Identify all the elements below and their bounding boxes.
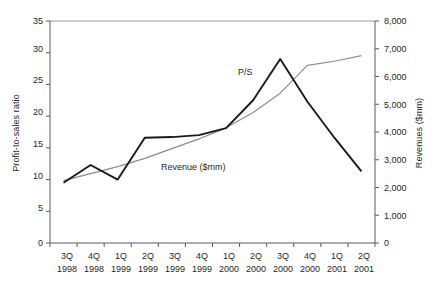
series-line-ps <box>64 59 362 183</box>
chart-container: Profit-to-sales ratio Revenues ($mm) 0 5… <box>0 0 442 286</box>
plot-area <box>0 0 442 286</box>
axis-ticks-left <box>46 21 50 243</box>
series-line-revenue <box>64 56 362 181</box>
axis-ticks-right <box>375 21 379 243</box>
axis-ticks-bottom <box>50 243 375 247</box>
